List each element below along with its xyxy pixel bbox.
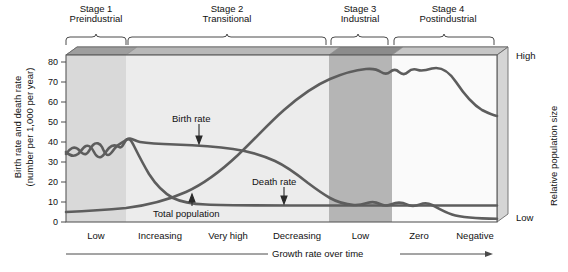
y-tick-10: 10 bbox=[40, 197, 58, 207]
y-tick-30: 30 bbox=[40, 157, 58, 167]
label-total-population: Total population bbox=[153, 208, 220, 219]
left-axis-title-line1: Birth rate and death rate bbox=[13, 42, 24, 212]
band-stage-1 bbox=[66, 55, 126, 222]
y-tick-80: 80 bbox=[40, 57, 58, 67]
growth-label-increasing: Increasing bbox=[126, 230, 194, 241]
right-axis-high-label: High bbox=[516, 50, 536, 61]
growth-label-low-2: Low bbox=[329, 230, 392, 241]
bracket-stage-3 bbox=[331, 34, 388, 45]
right-axis-title: Relative population size bbox=[548, 106, 559, 206]
y-tick-60: 60 bbox=[40, 97, 58, 107]
growth-rate-arrow-icon bbox=[485, 251, 493, 257]
chart-box-top-face bbox=[66, 47, 508, 55]
left-axis-title-line2: (number per 1,000 per year) bbox=[25, 42, 36, 212]
stage-brackets bbox=[66, 34, 494, 45]
y-tick-40: 40 bbox=[40, 137, 58, 147]
y-tick-70: 70 bbox=[40, 77, 58, 87]
growth-label-zero: Zero bbox=[392, 230, 446, 241]
bracket-stage-2 bbox=[128, 34, 326, 45]
label-death-rate: Death rate bbox=[252, 176, 296, 187]
chart-box-right-face bbox=[497, 47, 508, 222]
bottom-axis-title: Growth rate over time bbox=[272, 248, 363, 259]
label-birth-rate: Birth rate bbox=[172, 113, 211, 124]
band-stage-4 bbox=[392, 55, 497, 222]
bracket-stage-1 bbox=[66, 34, 126, 45]
y-tick-50: 50 bbox=[40, 117, 58, 127]
growth-label-decreasing: Decreasing bbox=[262, 230, 332, 241]
growth-label-very-high: Very high bbox=[194, 230, 262, 241]
y-tick-20: 20 bbox=[40, 177, 58, 187]
y-axis-ticks bbox=[61, 62, 66, 222]
y-tick-0: 0 bbox=[40, 217, 58, 227]
band-stage-3 bbox=[329, 55, 392, 222]
band-stage-2 bbox=[126, 55, 329, 222]
right-axis-low-label: Low bbox=[516, 212, 533, 223]
growth-label-low-1: Low bbox=[66, 230, 126, 241]
demographic-transition-figure: Stage 1 Preindustrial Stage 2 Transition… bbox=[0, 0, 568, 272]
bracket-stage-4 bbox=[394, 34, 494, 45]
growth-label-negative: Negative bbox=[446, 230, 504, 241]
